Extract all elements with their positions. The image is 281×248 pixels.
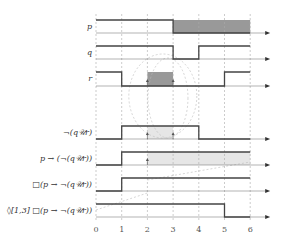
time-tick-label: 6	[248, 225, 253, 234]
arrow-head-icon	[265, 57, 270, 61]
arrow-head-icon	[265, 163, 270, 167]
signal-label-not-q-until-r: ¬(q𝒰r)	[63, 128, 92, 138]
arrow-head-icon	[265, 137, 270, 141]
signal-label-p: p	[87, 22, 92, 31]
signal-label-r: r	[88, 74, 92, 83]
shaded-interval	[173, 20, 250, 33]
signal-label-eventually: ◊[1,3] □(p → ¬(q𝒰r))	[7, 206, 92, 216]
signal-label-q: q	[87, 48, 92, 57]
time-tick-label: 5	[222, 225, 227, 234]
arrow-head-icon	[265, 189, 270, 193]
time-tick-label: 4	[196, 225, 201, 234]
arrow-head-icon	[265, 31, 270, 35]
signal-label-p-implies: p → (¬(q𝒰r))	[40, 154, 92, 164]
time-tick-label: 2	[145, 225, 150, 234]
signal-label-always: □(p → ¬(q𝒰r))	[32, 180, 92, 190]
time-tick-label: 1	[119, 225, 124, 234]
time-tick-label: 3	[171, 225, 176, 234]
signal-waveform	[96, 46, 250, 59]
time-tick-label: 0	[93, 225, 98, 234]
arrow-head-icon	[265, 215, 270, 219]
arrow-head-icon	[265, 84, 270, 88]
shaded-interval	[147, 72, 173, 86]
